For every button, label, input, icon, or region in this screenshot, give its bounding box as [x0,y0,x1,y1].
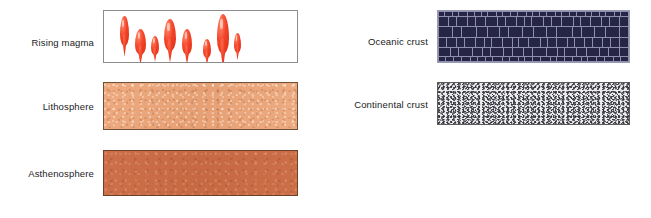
magma-droplet [135,29,146,55]
brick-row [439,17,628,25]
legend-swatch-oceanic-crust [437,10,630,63]
legend-label-lithosphere: Lithosphere [14,101,94,112]
magma-droplet [182,29,192,55]
brick-pattern [438,11,629,62]
geology-legend-figure: Rising magma Lithosphere Asthenosphere O… [0,0,651,218]
legend-swatch-continental-crust [437,82,630,125]
legend-swatch-rising-magma [103,10,298,63]
magma-droplet [203,39,211,58]
legend-label-asthenosphere: Asthenosphere [4,168,94,179]
brick-row [439,12,628,16]
legend-label-rising-magma: Rising magma [14,37,94,48]
legend-swatch-lithosphere [103,82,298,130]
legend-label-continental-crust: Continental crust [340,99,428,110]
legend-label-oceanic-crust: Oceanic crust [348,36,428,47]
legend-swatch-asthenosphere [103,150,298,196]
magma-droplet [151,36,159,55]
brick-row [439,38,628,46]
magma-droplet [217,14,229,54]
brick-row [439,48,628,56]
magma-droplet [164,19,176,51]
brick-row [439,57,628,61]
brick-row [439,27,628,38]
magma-droplet [234,33,241,53]
magma-droplet [120,16,129,46]
